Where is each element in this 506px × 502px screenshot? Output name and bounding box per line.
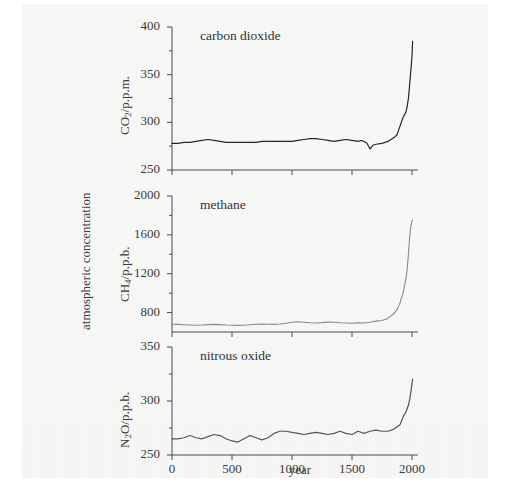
y-tick-label: 800 — [126, 304, 160, 320]
y-tick-label: 350 — [126, 66, 160, 82]
y-axis-label-n2o-sub: 2 — [123, 434, 133, 439]
panel-title-nitrous-oxide: nitrous oxide — [200, 348, 271, 364]
x-tick-label: 0 — [148, 461, 196, 477]
panel-methane — [167, 196, 418, 337]
shared-y-axis-label: atmospheric concentration — [78, 192, 94, 330]
y-tick-label: 2000 — [126, 187, 160, 203]
y-tick-label: 400 — [126, 18, 160, 34]
x-tick-label: 1500 — [328, 461, 376, 477]
y-tick-label: 1600 — [126, 226, 160, 242]
panel-title-carbon-dioxide: carbon dioxide — [200, 28, 281, 44]
x-tick-label: 2000 — [388, 461, 436, 477]
plot-canvas — [0, 0, 506, 502]
series-line — [172, 41, 413, 149]
y-axis-label-ch4-base: CH — [117, 284, 132, 302]
x-tick-label: 500 — [208, 461, 256, 477]
panel-title-methane: methane — [200, 197, 246, 213]
x-tick-label: 1000 — [268, 461, 316, 477]
y-tick-label: 1200 — [126, 265, 160, 281]
y-tick-label: 250 — [126, 161, 160, 177]
y-tick-label: 300 — [126, 113, 160, 129]
series-line — [172, 379, 413, 442]
series-line — [172, 220, 413, 325]
y-tick-label: 350 — [126, 338, 160, 354]
panel-carbon-dioxide — [167, 27, 418, 175]
figure-container: atmospheric concentration carbon dioxide… — [0, 0, 506, 502]
y-tick-label: 250 — [126, 446, 160, 462]
y-tick-label: 300 — [126, 392, 160, 408]
